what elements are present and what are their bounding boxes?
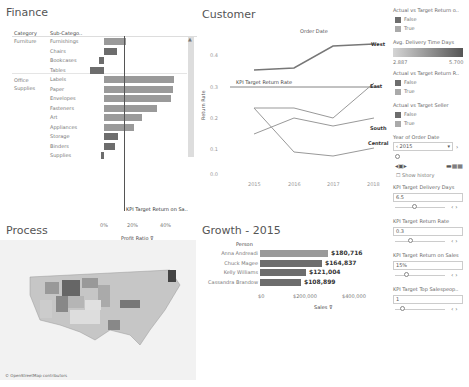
- profit-bar[interactable]: [104, 143, 115, 150]
- series-label-west: West: [371, 41, 385, 47]
- param-input[interactable]: 0.3: [393, 227, 463, 236]
- svg-text:0.4: 0.4: [210, 52, 218, 58]
- chevron-down-icon: ▾: [447, 143, 452, 150]
- subcategory-label: Furnishings: [50, 38, 78, 44]
- param-slider[interactable]: [395, 275, 445, 276]
- axis-label: Sales ⊽: [314, 304, 333, 310]
- map-attribution[interactable]: © OpenStreetMap contributors: [5, 373, 67, 378]
- gradient-max: 5.700: [449, 59, 463, 65]
- series-label-south: South: [370, 125, 387, 131]
- param-step-buttons[interactable]: ‹ ›: [451, 271, 458, 278]
- legend-item-true[interactable]: True: [395, 25, 415, 32]
- profit-bar[interactable]: [104, 124, 134, 131]
- growth-title: Growth - 2015: [202, 224, 281, 237]
- param-input[interactable]: 15%: [393, 261, 463, 270]
- scrollbar[interactable]: [188, 37, 194, 157]
- profit-bar[interactable]: [104, 48, 117, 55]
- subcategory-label: Chairs: [50, 48, 66, 54]
- legend-item-true[interactable]: True: [395, 88, 415, 95]
- subcategory-label: Appliances: [50, 124, 77, 130]
- svg-text:0.3: 0.3: [210, 84, 218, 90]
- subcategory-label: Art: [50, 114, 57, 120]
- svg-text:0.0: 0.0: [210, 171, 218, 177]
- svg-text:2016: 2016: [288, 181, 301, 187]
- svg-text:KPI Target Return Rate: KPI Target Return Rate: [236, 79, 292, 86]
- profit-bar[interactable]: [104, 86, 173, 93]
- param-slider[interactable]: [395, 207, 445, 208]
- category-office-supplies: Office Supplies: [14, 76, 44, 92]
- year-dropdown[interactable]: ‹ 2015▾: [393, 142, 453, 151]
- param-step-buttons[interactable]: ‹ ›: [451, 305, 458, 312]
- sales-bar[interactable]: [260, 279, 301, 286]
- param-slider-knob[interactable]: [400, 306, 405, 311]
- param-title: KPI Target Return Rate: [393, 218, 449, 224]
- sales-bar[interactable]: [260, 250, 328, 257]
- subcategory-label: Envelopes: [50, 95, 76, 101]
- axis-tick: $400,000: [342, 293, 366, 299]
- svg-text:Return Rate: Return Rate: [200, 90, 206, 120]
- gradient-title: Avg. Delivery Time Days: [393, 39, 454, 45]
- legend-item-false[interactable]: False: [395, 79, 417, 86]
- show-history-toggle[interactable]: ☐ Show history: [396, 172, 434, 178]
- legend-return-title: Actual vs Target Return o..: [393, 7, 459, 13]
- param-title: KPI Target Top Salespeop..: [393, 286, 458, 292]
- axis-tick: 0%: [100, 222, 108, 228]
- param-slider-knob[interactable]: [408, 238, 413, 243]
- subcategory-label: Fasteners: [50, 105, 74, 111]
- param-slider-knob[interactable]: [412, 204, 417, 209]
- svg-text:2015: 2015: [248, 181, 261, 187]
- process-title: Process: [6, 224, 48, 237]
- profit-bar[interactable]: [104, 76, 174, 83]
- series-label-central: Central: [368, 140, 389, 146]
- svg-text:2017: 2017: [327, 181, 340, 187]
- param-input[interactable]: 6.5: [393, 193, 463, 202]
- param-slider[interactable]: [395, 241, 445, 242]
- param-title: KPI Target Return on Sales: [393, 252, 459, 258]
- svg-text:0.2: 0.2: [210, 115, 218, 121]
- category-furniture: Furniture: [14, 38, 36, 44]
- person-header: Person: [236, 241, 253, 247]
- profit-bar[interactable]: [99, 57, 104, 64]
- profit-bar[interactable]: [104, 133, 118, 140]
- gradient-min: 2.887: [393, 59, 407, 65]
- sales-value: $121,004: [309, 268, 341, 275]
- reference-line: [124, 36, 125, 211]
- subcategory-label: Tables: [50, 67, 66, 73]
- legend-item-false[interactable]: False: [395, 111, 417, 118]
- profit-bar[interactable]: [104, 95, 171, 102]
- axis-tick: $0: [258, 293, 264, 299]
- sales-bar[interactable]: [260, 260, 322, 267]
- subcategory-label: Binders: [50, 143, 69, 149]
- map[interactable]: © OpenStreetMap contributors: [0, 240, 196, 380]
- legend-item-false[interactable]: False: [395, 16, 417, 23]
- param-step-buttons[interactable]: ‹ ›: [451, 237, 458, 244]
- param-slider-knob[interactable]: [404, 272, 409, 277]
- param-title: KPI Target Delivery Days: [393, 184, 454, 190]
- param-input[interactable]: 1: [393, 295, 463, 304]
- playback-controls[interactable]: ◂▣▸: [395, 162, 407, 169]
- legend-item-true[interactable]: True: [395, 120, 415, 127]
- customer-line-chart: Order Date 0.4 0.3 0.2 0.1 0.0 Return Ra…: [200, 20, 385, 190]
- param-step-buttons[interactable]: ‹ ›: [451, 203, 458, 210]
- year-filter-title: Year of Order Date: [393, 134, 439, 140]
- sales-bar[interactable]: [260, 269, 306, 276]
- scroll-up-icon[interactable]: ▲: [188, 36, 192, 42]
- next-year-button[interactable]: ›: [456, 143, 458, 150]
- profit-bar[interactable]: [101, 152, 104, 159]
- legend-seller-title: Actual vs Target Seller: [393, 102, 449, 108]
- year-slider-knob[interactable]: [395, 154, 400, 159]
- sales-value: $164,837: [325, 259, 357, 266]
- person-label: Anna Andreadi: [221, 250, 258, 256]
- gradient-legend: [393, 48, 463, 57]
- profit-bar[interactable]: [104, 105, 157, 112]
- axis-tick: 40%: [160, 222, 171, 228]
- profit-bar[interactable]: [90, 67, 104, 74]
- reference-label: KPI Target Return on Sa..: [126, 206, 188, 212]
- speed-controls[interactable]: ▬▦▦: [446, 162, 463, 169]
- sales-value: $108,899: [304, 278, 336, 285]
- subcategory-label: Labels: [50, 76, 66, 82]
- axis-tick: 20%: [127, 222, 138, 228]
- sales-value: $180,716: [331, 249, 363, 256]
- legend-returnrate-title: Actual vs Target Return R..: [393, 70, 459, 76]
- svg-text:0.1: 0.1: [210, 146, 218, 152]
